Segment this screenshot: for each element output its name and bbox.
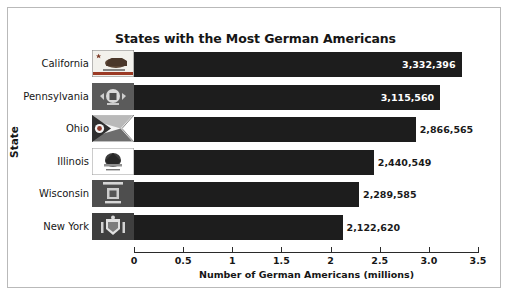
x-axis-tick-label: 3.5 [470,255,487,266]
x-axis-tick-label: 1 [229,255,236,266]
bar-value-label: 2,440,549 [378,150,432,175]
x-axis-tick-label: 2 [327,255,334,266]
california-state-flag-icon [92,50,134,77]
bar-value-label: 2,122,620 [347,215,401,240]
category-label: New York [43,221,92,232]
ohio-state-flag-icon [92,115,134,142]
category-label: Pennsylvania [23,91,92,102]
category-label: California [42,58,93,69]
bar-row: 2,122,620 [134,215,478,240]
x-axis-tick-mark [281,247,282,252]
x-axis-tick-label: 0 [131,255,138,266]
bar-row: 2,440,549 [134,150,478,175]
y-axis-tick-wisconsin: Wisconsin [0,181,134,206]
x-axis-tick-label: 2.5 [371,255,388,266]
x-axis-tick-label: 1.5 [273,255,290,266]
y-axis-tick-illinois: Illinois [0,149,134,174]
y-axis-tick-pennsylvania: Pennsylvania [0,84,134,109]
illinois-state-flag-icon [92,148,134,175]
x-axis-tick-label: 3.0 [420,255,437,266]
x-axis-title: Number of German Americans (millions) [134,269,479,280]
chart-title: States with the Most German Americans [0,31,511,46]
x-axis-tick-mark [429,247,430,252]
plot-area: 3,332,3963,115,5602,866,5652,440,5492,28… [134,52,478,247]
x-axis-tick-mark [478,247,479,252]
bar-value-label: 3,115,560 [380,85,434,110]
pennsylvania-state-flag-icon [92,83,134,110]
category-label: Illinois [57,156,92,167]
x-axis-tick-mark [380,247,381,252]
x-axis-tick-mark [134,247,135,252]
y-axis-tick-new-york: New York [0,214,134,239]
bar[interactable] [134,215,343,240]
bar-value-label: 3,332,396 [402,52,456,77]
bar[interactable] [134,182,359,207]
new-york-state-flag-icon [92,213,134,240]
category-label: Ohio [66,123,92,134]
x-axis-tick-label: 0.5 [175,255,192,266]
bar-row: 3,332,396 [134,52,478,77]
wisconsin-state-flag-icon [92,180,134,207]
bar-value-label: 2,289,585 [363,182,417,207]
chart-figure: States with the Most German Americans St… [0,0,511,297]
x-axis-tick-mark [183,247,184,252]
bar[interactable] [134,117,416,142]
bar-row: 2,289,585 [134,182,478,207]
y-axis-tick-california: California [0,51,134,76]
x-axis-line [134,252,479,253]
bar[interactable] [134,150,374,175]
category-label: Wisconsin [39,188,92,199]
bar-row: 2,866,565 [134,117,478,142]
bar-row: 3,115,560 [134,85,478,110]
bar-value-label: 2,866,565 [420,117,474,142]
x-axis-tick-mark [232,247,233,252]
y-axis-tick-ohio: Ohio [0,116,134,141]
x-axis-tick-mark [331,247,332,252]
